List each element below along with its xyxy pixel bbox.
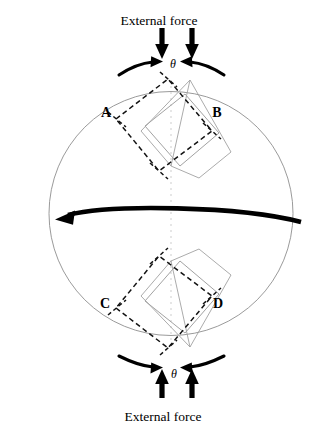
rotation-arrow-top-left xyxy=(119,56,163,75)
rotation-arrow-bottom-right xyxy=(180,356,224,373)
force-arrow-bottom-right xyxy=(185,369,199,398)
top-lattice-cell xyxy=(108,72,231,179)
rotation-arrow-bottom-left xyxy=(119,356,163,373)
grain-deformation-diagram: External force θ xyxy=(0,0,319,430)
force-arrow-top-left xyxy=(155,28,169,59)
bottom-bottom-corner-tick xyxy=(160,340,177,355)
bottom-gray-square xyxy=(145,261,219,333)
theta-label-bottom: θ xyxy=(171,367,177,381)
external-force-label-bottom: External force xyxy=(125,409,202,424)
rotation-arrow-top-right xyxy=(180,56,224,75)
corner-label-d: D xyxy=(213,296,223,311)
force-arrow-top-right xyxy=(185,28,199,59)
force-arrow-bottom-left xyxy=(155,369,169,398)
diagram-canvas: External force θ xyxy=(0,0,319,430)
theta-label-top: θ xyxy=(170,57,176,71)
top-bottom-corner-tick xyxy=(150,163,168,179)
corner-label-c: C xyxy=(100,296,110,311)
top-gray-square xyxy=(145,94,219,166)
corner-label-a: A xyxy=(101,105,112,120)
corner-label-b: B xyxy=(212,105,221,120)
shear-direction-arrow xyxy=(55,208,301,225)
external-force-label-top: External force xyxy=(121,13,198,28)
bottom-top-corner-tick xyxy=(150,248,168,264)
top-top-corner-tick xyxy=(160,72,177,87)
